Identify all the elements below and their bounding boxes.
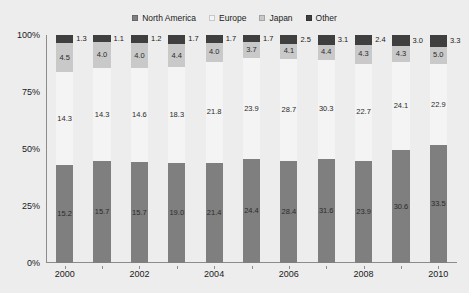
bar-segment-value-label: 22.9 [430,101,447,109]
x-axis-tick-mark [177,266,178,269]
bar-segment-other[interactable]: 3.1 [318,35,335,45]
bar-segment-value-label: 30.6 [392,203,409,211]
y-axis-tick-label: 75% [22,87,40,97]
bar-segment-japan[interactable]: 4.5 [56,43,73,72]
bar-segment-value-label: 28.7 [280,106,297,114]
bar-segment-japan[interactable]: 4.0 [93,42,110,68]
x-axis-tick-label: 2000 [55,269,75,279]
bar-column[interactable]: 21.421.84.01.7 [206,35,223,263]
bar-segment-value-label: 30.3 [318,106,335,114]
bar-column[interactable]: 33.522.95.03.3 [430,35,447,263]
bar-column[interactable]: 30.624.14.33.0 [392,35,409,263]
bar-segment-europe[interactable]: 23.9 [243,58,260,159]
bars-layer: 15.214.34.51.315.714.34.01.115.714.64.01… [46,35,457,263]
bar-column[interactable]: 28.428.74.12.5 [280,35,297,263]
legend-item-other[interactable]: Other [306,14,337,23]
bar-segment-europe[interactable]: 30.3 [318,60,335,160]
x-axis-tick-mark [326,266,327,269]
bar-segment-north-america[interactable]: 15.2 [56,165,73,263]
bar-segment-north-america[interactable]: 30.6 [392,150,409,263]
bar-segment-other[interactable]: 2.5 [280,35,297,44]
legend-item-label: Europe [219,14,246,23]
bar-segment-japan[interactable]: 4.0 [206,43,223,62]
x-axis-tick-mark [252,266,253,269]
bar-segment-value-label: 15.7 [131,209,148,217]
bar-segment-other[interactable]: 1.7 [206,35,223,43]
x-axis-tick-label: 2010 [428,269,448,279]
bar-segment-value-label: 1.1 [111,35,124,43]
bar-segment-other[interactable]: 2.4 [355,35,372,45]
bar-segment-value-label: 21.8 [206,109,223,117]
bar-segment-other[interactable]: 1.7 [243,35,260,42]
bar-segment-north-america[interactable]: 28.4 [280,161,297,263]
y-axis-tick-label: 0% [27,258,40,268]
bar-segment-north-america[interactable]: 19.0 [168,163,185,263]
bar-segment-japan[interactable]: 4.4 [318,45,335,59]
bar-segment-europe[interactable]: 22.9 [430,64,447,145]
bar-segment-europe[interactable]: 14.3 [56,72,73,164]
bar-segment-japan[interactable]: 4.0 [131,43,148,69]
bar-segment-north-america[interactable]: 15.7 [93,161,110,263]
bar-segment-value-label: 4.5 [56,54,73,62]
bar-segment-value-label: 24.4 [243,207,260,215]
bar-segment-value-label: 15.2 [56,210,73,218]
bar-segment-europe[interactable]: 14.3 [93,68,110,161]
bar-segment-other[interactable]: 3.3 [430,35,447,47]
bar-segment-value-label: 4.3 [392,50,409,58]
bar-segment-japan[interactable]: 4.1 [280,44,297,59]
bar-segment-north-america[interactable]: 21.4 [206,163,223,263]
bar-segment-other[interactable]: 1.3 [56,35,73,43]
bar-column[interactable]: 19.018.34.41.7 [168,35,185,263]
bar-segment-japan[interactable]: 4.3 [392,46,409,62]
bar-segment-japan[interactable]: 4.3 [355,45,372,63]
bar-segment-value-label: 4.4 [318,49,335,57]
bar-column[interactable]: 31.630.34.43.1 [318,35,335,263]
bar-segment-north-america[interactable]: 23.9 [355,161,372,263]
bar-segment-value-label: 1.3 [73,35,86,43]
legend-item-japan[interactable]: Japan [259,14,292,23]
bar-segment-value-label: 23.9 [355,208,372,216]
bar-segment-north-america[interactable]: 24.4 [243,159,260,263]
legend-item-europe[interactable]: Europe [209,14,246,23]
bar-column[interactable]: 15.214.34.51.3 [56,35,73,263]
bar-segment-value-label: 14.6 [131,112,148,120]
bar-segment-north-america[interactable]: 31.6 [318,159,335,263]
bar-segment-other[interactable]: 1.1 [93,35,110,42]
x-axis-tick-mark [102,266,103,269]
bar-segment-other[interactable]: 1.7 [168,35,185,44]
y-axis-tick-label: 50% [22,144,40,154]
bar-segment-europe[interactable]: 28.7 [280,59,297,162]
bar-segment-japan[interactable]: 5.0 [430,47,447,65]
bar-segment-value-label: 3.1 [335,36,348,44]
bar-segment-value-label: 28.4 [280,208,297,216]
stacked-bar-chart: North AmericaEuropeJapanOther 0%25%50%75… [0,0,469,293]
bar-segment-japan[interactable]: 3.7 [243,42,260,58]
bar-column[interactable]: 15.714.64.01.2 [131,35,148,263]
bar-segment-north-america[interactable]: 33.5 [430,145,447,263]
legend-swatch-icon [209,15,215,21]
bar-segment-value-label: 18.3 [168,111,185,119]
legend-swatch-icon [259,15,265,21]
bar-segment-japan[interactable]: 4.4 [168,44,185,67]
y-axis-tick-label: 100% [17,30,40,40]
bar-column[interactable]: 24.423.93.71.7 [243,35,260,263]
y-axis: 0%25%50%75%100% [0,35,44,263]
bar-segment-value-label: 23.9 [243,105,260,113]
bar-column[interactable]: 23.922.74.32.4 [355,35,372,263]
bar-segment-other[interactable]: 3.0 [392,35,409,46]
bar-segment-other[interactable]: 1.2 [131,35,148,43]
bar-column[interactable]: 15.714.34.01.1 [93,35,110,263]
bar-segment-europe[interactable]: 14.6 [131,68,148,162]
bar-segment-europe[interactable]: 18.3 [168,67,185,163]
bar-segment-europe[interactable]: 24.1 [392,62,409,151]
bar-segment-europe[interactable]: 22.7 [355,64,372,161]
bar-segment-value-label: 1.7 [260,35,273,43]
bar-segment-north-america[interactable]: 15.7 [131,162,148,263]
bar-segment-europe[interactable]: 21.8 [206,62,223,164]
legend-item-north-america[interactable]: North America [132,14,196,23]
bar-segment-value-label: 3.0 [410,37,423,45]
bar-segment-value-label: 4.4 [168,52,185,60]
bar-segment-value-label: 14.3 [93,111,110,119]
legend-swatch-icon [132,15,138,21]
bar-segment-value-label: 1.7 [185,36,198,44]
